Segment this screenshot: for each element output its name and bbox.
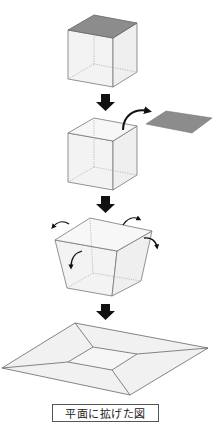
closed-cube <box>68 15 137 87</box>
flattened-net <box>2 323 208 395</box>
down-arrow-icon <box>96 196 115 213</box>
curved-arrow-icon <box>123 218 139 225</box>
curved-arrow-icon <box>53 222 69 227</box>
lid-face-removed <box>146 111 212 133</box>
lid-removed-cube <box>68 118 137 190</box>
opening-box <box>55 218 152 296</box>
box-unfolding-diagram <box>0 0 213 400</box>
down-arrow-icon <box>96 304 115 320</box>
down-arrow-icon <box>96 94 115 111</box>
caption-label: 平面に拡げた図 <box>52 404 159 422</box>
